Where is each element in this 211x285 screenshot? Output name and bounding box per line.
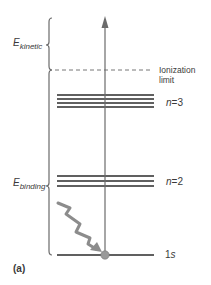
arrow-up-icon xyxy=(102,16,109,28)
n2-label: n=2 xyxy=(166,177,183,187)
panel-label: (a) xyxy=(13,264,25,274)
photon-wavy-arrow-icon xyxy=(58,203,102,252)
n3-label: n=3 xyxy=(166,98,183,108)
e-kinetic-label: Ekinetic xyxy=(13,38,42,51)
binding-brace xyxy=(46,70,52,255)
kinetic-brace xyxy=(46,18,52,70)
ground-1s-label: 1s xyxy=(165,250,176,260)
electron-icon xyxy=(101,251,109,259)
e-binding-label: Ebinding xyxy=(13,178,45,191)
ionization-limit-label: Ionization limit xyxy=(159,66,195,84)
